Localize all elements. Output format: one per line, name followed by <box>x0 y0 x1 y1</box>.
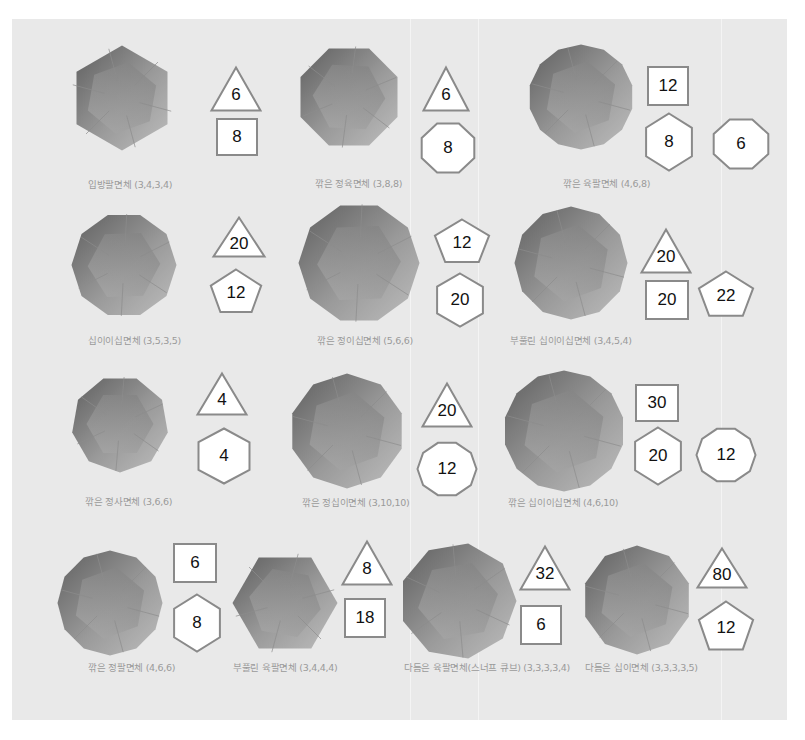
face-count: 12 <box>208 283 264 303</box>
face-count: 6 <box>173 553 217 573</box>
polyhedron-illustration <box>70 374 170 474</box>
square-face-count-badge: 6 <box>520 605 562 645</box>
face-count: 4 <box>196 390 248 410</box>
pentagon-face-count-badge: 12 <box>432 218 492 268</box>
decagon-face-count-badge: 12 <box>695 426 757 484</box>
hexagon-face-count-badge: 8 <box>641 112 697 172</box>
face-count: 12 <box>695 445 757 465</box>
face-count: 12 <box>432 233 492 253</box>
face-count: 20 <box>212 234 266 254</box>
octagon-face-count-badge: 8 <box>418 120 478 176</box>
triangle-face-count-badge: 8 <box>341 540 393 586</box>
triangle-face-count-badge: 80 <box>696 547 748 589</box>
triangle-face-count-badge: 20 <box>212 216 266 258</box>
face-count: 12 <box>696 618 756 638</box>
pentagon-face-count-badge: 12 <box>696 600 756 656</box>
triangle-face-count-badge: 6 <box>422 66 470 112</box>
square-face-count-badge: 6 <box>173 543 217 583</box>
square-face-count-badge: 30 <box>635 384 679 422</box>
face-count: 18 <box>344 608 386 628</box>
hexagon-face-count-badge: 20 <box>432 272 488 328</box>
polyhedron-illustration <box>70 211 178 319</box>
polyhedron-illustration <box>295 43 403 151</box>
polyhedron-illustration <box>288 372 406 490</box>
polyhedron-illustration <box>68 44 176 152</box>
face-count: 4 <box>193 446 255 466</box>
polyhedron-illustration <box>231 549 339 657</box>
solid-caption: 깎은 십이이십면체 (4,6,10) <box>508 495 618 509</box>
hexagon-face-count-badge: 8 <box>169 593 225 653</box>
pentagon-face-count-badge: 12 <box>208 268 264 318</box>
face-count: 6 <box>210 85 262 105</box>
solid-caption: 깎은 정육면체 (3,8,8) <box>315 176 402 190</box>
octagon-face-count-badge: 6 <box>710 116 772 172</box>
face-count: 20 <box>645 290 689 310</box>
solid-caption: 다듬은 십이면체 (3,3,3,3,5) <box>585 660 698 674</box>
face-count: 8 <box>341 559 393 579</box>
face-count: 8 <box>641 132 697 152</box>
solid-caption: 입방팔면체 (3,4,3,4) <box>88 177 172 191</box>
face-count: 8 <box>418 138 478 158</box>
triangle-face-count-badge: 20 <box>421 382 473 428</box>
polyhedron-illustration <box>398 541 518 661</box>
triangle-face-count-badge: 4 <box>196 372 248 416</box>
solid-caption: 십이이십면체 (3,5,3,5) <box>88 333 181 347</box>
polyhedron-illustration <box>56 549 164 657</box>
face-count: 8 <box>169 613 225 633</box>
triangle-face-count-badge: 32 <box>519 545 571 591</box>
triangle-face-count-badge: 20 <box>640 228 692 274</box>
face-count: 80 <box>696 565 748 585</box>
face-count: 20 <box>630 446 686 466</box>
face-count: 8 <box>216 127 258 147</box>
solid-caption: 부풀린 십이이십면체 (3,4,5,4) <box>510 333 632 347</box>
face-count: 6 <box>710 134 772 154</box>
face-count: 20 <box>640 247 692 267</box>
solid-caption: 부풀린 육팔면체 (3,4,4,4) <box>233 660 337 674</box>
face-count: 20 <box>421 401 473 421</box>
face-count: 20 <box>432 290 488 310</box>
polyhedron-illustration <box>297 201 421 325</box>
face-count: 32 <box>519 564 571 584</box>
solid-caption: 깎은 정사면체 (3,6,6) <box>85 494 172 508</box>
face-count: 30 <box>635 393 679 413</box>
polyhedron-illustration <box>502 369 626 493</box>
solid-caption: 깎은 정팔면체 (4,6,6) <box>88 660 175 674</box>
solid-caption: 다듬은 육팔면체(스너프 큐브) (3,3,3,3,4) <box>404 660 570 674</box>
pentagon-face-count-badge: 22 <box>696 270 756 322</box>
polyhedron-illustration <box>527 43 635 151</box>
face-count: 22 <box>696 286 756 306</box>
solid-caption: 깎은 정십이면체 (3,10,10) <box>302 495 409 509</box>
square-face-count-badge: 18 <box>344 598 386 638</box>
hexagon-face-count-badge: 4 <box>193 427 255 485</box>
solid-caption: 깎은 육팔면체 (4,6,8) <box>563 176 650 190</box>
triangle-face-count-badge: 6 <box>210 66 262 112</box>
square-face-count-badge: 20 <box>645 280 689 320</box>
face-count: 12 <box>647 76 689 96</box>
hexagon-face-count-badge: 20 <box>630 426 686 486</box>
square-face-count-badge: 8 <box>216 118 258 156</box>
square-face-count-badge: 12 <box>647 66 689 106</box>
polyhedron-illustration <box>581 544 693 656</box>
face-count: 12 <box>416 459 478 479</box>
face-count: 6 <box>520 615 562 635</box>
polyhedron-illustration <box>513 205 629 321</box>
face-count: 6 <box>422 85 470 105</box>
solid-caption: 깎은 정이십면체 (5,6,6) <box>317 333 413 347</box>
decagon-face-count-badge: 12 <box>416 440 478 498</box>
